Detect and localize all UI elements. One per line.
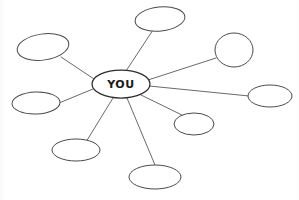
node-ellipse-bottom[interactable] bbox=[129, 165, 181, 189]
connector-line-bottom-left[interactable] bbox=[86, 98, 113, 142]
spider-diagram-canvas: YOU bbox=[0, 0, 299, 200]
node-ellipse-lower-right[interactable] bbox=[174, 113, 214, 135]
connector-line-top-left[interactable] bbox=[61, 57, 94, 79]
node-ellipse-top-left[interactable] bbox=[15, 31, 70, 64]
node-ellipse-top[interactable] bbox=[134, 4, 186, 33]
connector-line-bottom[interactable] bbox=[127, 98, 155, 165]
node-ellipse-bottom-left[interactable] bbox=[52, 139, 100, 161]
connector-line-top-right[interactable] bbox=[148, 58, 216, 80]
connector-line-left[interactable] bbox=[59, 89, 93, 103]
connector-line-right[interactable] bbox=[149, 86, 249, 96]
center-node-label: YOU bbox=[106, 78, 135, 91]
spider-diagram: YOU bbox=[0, 0, 299, 200]
connector-line-lower-right[interactable] bbox=[141, 95, 184, 116]
node-ellipse-top-right[interactable] bbox=[215, 33, 253, 67]
connector-line-top[interactable] bbox=[126, 30, 153, 71]
node-ellipse-left[interactable] bbox=[12, 91, 61, 115]
node-ellipse-right[interactable] bbox=[248, 85, 292, 107]
